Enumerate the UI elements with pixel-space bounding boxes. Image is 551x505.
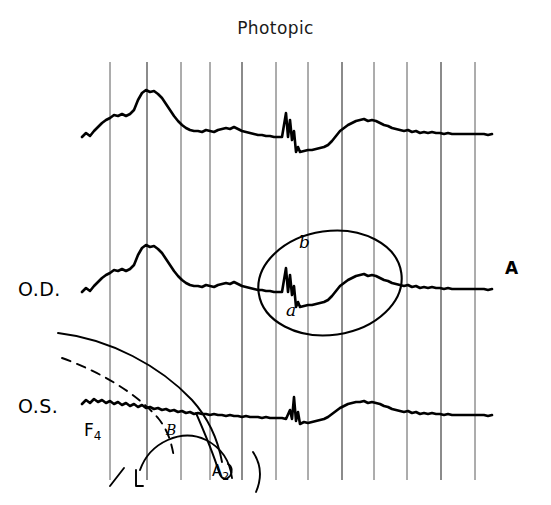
erg-figure: Photopic O.D. O.S. A F4 b a B A2 bbox=[0, 0, 551, 505]
annotation-f4-letter: F bbox=[84, 420, 94, 440]
annotation-f4-subscript: 4 bbox=[94, 429, 102, 443]
annotation-a2-subscript: 2 bbox=[222, 470, 229, 483]
trace-label-od: O.D. bbox=[18, 278, 61, 300]
trace-2-photopic-od bbox=[82, 245, 492, 307]
handdrawn-paren-right bbox=[253, 452, 260, 492]
annotation-b-lower: B bbox=[166, 422, 176, 438]
trace-3-photopic-os bbox=[82, 397, 492, 424]
highlight-ellipse-icon bbox=[251, 221, 408, 344]
panel-label-a: A bbox=[505, 258, 519, 278]
trace-label-os: O.S. bbox=[18, 395, 58, 417]
annotation-f4: F4 bbox=[84, 420, 101, 443]
annotation-a2-letter: A bbox=[212, 462, 222, 480]
handdrawn-overlays-group bbox=[58, 221, 409, 492]
erg-b-wave-label: b bbox=[299, 232, 310, 252]
erg-plot-canvas bbox=[0, 0, 551, 505]
handdrawn-tick-left bbox=[110, 468, 124, 486]
annotation-a2: A2 bbox=[212, 462, 229, 483]
trace-lines-group bbox=[82, 90, 492, 424]
erg-a-wave-label: a bbox=[286, 300, 296, 320]
handdrawn-small-mark bbox=[136, 470, 143, 486]
trace-1-photopic-top bbox=[82, 90, 492, 152]
handdrawn-curve-solid bbox=[58, 333, 222, 462]
